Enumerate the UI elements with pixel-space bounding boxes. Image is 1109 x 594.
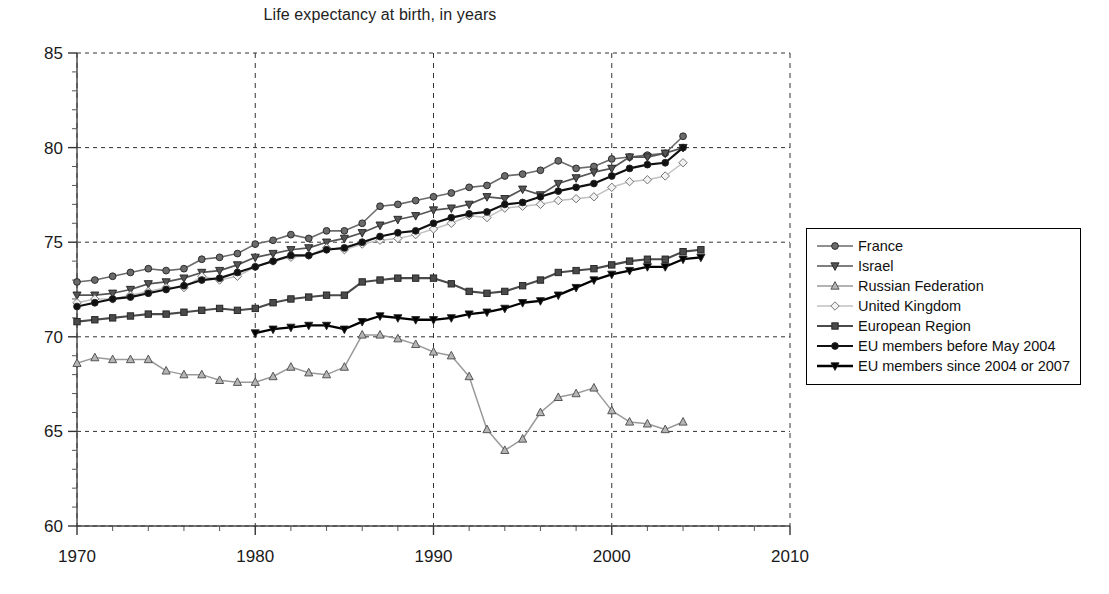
data-point <box>181 282 188 289</box>
data-point <box>412 197 419 204</box>
data-point <box>698 247 704 253</box>
series-russian-federation <box>73 331 687 454</box>
data-point <box>448 214 455 221</box>
data-point <box>626 258 632 264</box>
legend-marker-diamond-icon <box>815 297 855 315</box>
data-point <box>109 273 116 280</box>
data-point <box>608 173 615 180</box>
data-point <box>92 317 98 323</box>
legend-item-eu-members-since-2004-or-2007[interactable]: EU members since 2004 or 2007 <box>815 356 1072 376</box>
data-point <box>377 277 383 283</box>
data-point <box>680 144 687 151</box>
data-point <box>484 290 490 296</box>
data-point <box>216 305 222 311</box>
data-point <box>662 159 669 166</box>
x-tick-label: 2010 <box>771 547 809 566</box>
data-point <box>484 182 491 189</box>
data-point <box>484 209 491 216</box>
data-point <box>573 267 579 273</box>
data-point <box>270 237 277 244</box>
data-point <box>127 294 134 301</box>
legend-item-russian-federation[interactable]: Russian Federation <box>815 276 1072 296</box>
data-point <box>163 286 170 293</box>
data-point <box>340 363 348 371</box>
data-point <box>555 188 562 195</box>
data-point <box>91 277 98 284</box>
axes <box>68 53 790 535</box>
data-point <box>323 292 329 298</box>
data-point <box>252 241 259 248</box>
y-tick-label: 65 <box>44 422 63 441</box>
data-point <box>679 418 687 426</box>
data-point <box>394 201 401 208</box>
data-point <box>832 243 839 250</box>
series-line <box>77 335 683 450</box>
data-point <box>626 165 633 172</box>
data-point <box>340 326 348 334</box>
data-point <box>608 183 616 191</box>
legend-marker-triangle-up-icon <box>815 277 855 295</box>
data-point <box>573 165 580 172</box>
x-tick-label: 1990 <box>415 547 453 566</box>
data-point <box>644 256 650 262</box>
data-point <box>377 233 384 240</box>
data-point <box>288 296 294 302</box>
data-point <box>832 343 839 350</box>
legend-label: EU members before May 2004 <box>855 338 1055 354</box>
data-point <box>554 196 562 204</box>
data-point <box>234 250 241 257</box>
chart-page: Life expectancy at birth, in years 60657… <box>0 0 1109 594</box>
data-point <box>377 203 384 210</box>
legend-label: EU members since 2004 or 2007 <box>855 358 1070 374</box>
legend-item-israel[interactable]: Israel <box>815 256 1072 276</box>
legend-marker-circle-icon <box>815 237 855 255</box>
data-point <box>644 161 651 168</box>
data-point <box>145 290 152 297</box>
data-point <box>359 220 366 227</box>
data-point <box>537 167 544 174</box>
data-point <box>74 303 81 310</box>
data-point <box>680 133 687 140</box>
data-point <box>519 199 526 206</box>
data-point <box>572 194 580 202</box>
data-point <box>466 288 472 294</box>
legend-label: European Region <box>855 318 971 334</box>
data-point <box>252 263 259 270</box>
data-point <box>251 330 259 338</box>
data-point <box>305 252 312 259</box>
data-point <box>163 311 169 317</box>
data-point <box>216 275 223 282</box>
data-point <box>832 323 838 329</box>
legend-label: Israel <box>855 258 893 274</box>
legend-item-france[interactable]: France <box>815 236 1072 256</box>
data-point <box>412 227 419 234</box>
data-point <box>643 176 651 184</box>
data-point <box>163 267 170 274</box>
data-point <box>590 193 598 201</box>
data-point <box>519 283 525 289</box>
legend-label: France <box>855 238 903 254</box>
data-point <box>270 258 277 265</box>
data-point <box>288 252 295 259</box>
data-point <box>537 277 543 283</box>
data-point <box>519 171 526 178</box>
data-point <box>341 244 348 251</box>
data-point <box>145 265 152 272</box>
data-point <box>626 418 634 426</box>
legend-label: United Kingdom <box>855 298 961 314</box>
data-point <box>91 353 99 361</box>
axis-tick-labels: 60657075808519701980199020002010 <box>44 44 809 566</box>
data-point <box>127 269 134 276</box>
x-tick-label: 1970 <box>58 547 96 566</box>
data-point <box>573 184 580 191</box>
data-point <box>430 220 437 227</box>
legend-item-eu-members-before-may-2004[interactable]: EU members before May 2004 <box>815 336 1072 356</box>
legend-item-united-kingdom[interactable]: United Kingdom <box>815 296 1072 316</box>
legend-item-european-region[interactable]: European Region <box>815 316 1072 336</box>
data-point <box>501 201 508 208</box>
data-point <box>555 157 562 164</box>
data-point <box>609 262 615 268</box>
data-point <box>466 210 473 217</box>
data-point <box>536 200 544 208</box>
data-point <box>430 193 437 200</box>
